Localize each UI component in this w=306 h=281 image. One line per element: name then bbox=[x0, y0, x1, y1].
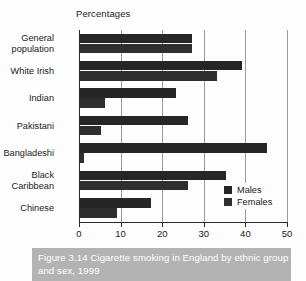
bar-females bbox=[80, 208, 117, 218]
x-tick-label-20: 20 bbox=[157, 228, 168, 239]
legend-label: Males bbox=[237, 185, 262, 195]
x-tick-20 bbox=[162, 223, 163, 227]
bar-females bbox=[80, 71, 217, 81]
category-label: White Irish bbox=[0, 66, 54, 77]
bar-females bbox=[80, 153, 84, 163]
gridline-50 bbox=[287, 30, 288, 222]
bar-males bbox=[80, 198, 151, 208]
x-tick-50 bbox=[287, 223, 288, 227]
category-row: General population bbox=[79, 30, 287, 57]
x-tick-label-40: 40 bbox=[240, 228, 251, 239]
axis-title: Percentages bbox=[76, 8, 130, 19]
legend-item-males: Males bbox=[224, 185, 272, 195]
bar-males bbox=[80, 171, 226, 181]
x-tick-label-30: 30 bbox=[199, 228, 210, 239]
category-row: Pakistani bbox=[79, 112, 287, 139]
x-tick-40 bbox=[245, 223, 246, 227]
bar-males bbox=[80, 143, 267, 153]
category-label: Pakistani bbox=[0, 121, 54, 132]
category-row: Bangladeshi bbox=[79, 140, 287, 167]
legend: MalesFemales bbox=[222, 183, 275, 209]
x-tick-label-10: 10 bbox=[115, 228, 126, 239]
bar-females bbox=[80, 126, 101, 136]
legend-item-females: Females bbox=[224, 197, 272, 207]
bar-males bbox=[80, 61, 242, 71]
bar-males bbox=[80, 88, 176, 98]
x-axis-line bbox=[79, 222, 288, 223]
x-tick-0 bbox=[79, 223, 80, 227]
bar-females bbox=[80, 44, 192, 54]
category-row: Indian bbox=[79, 85, 287, 112]
bar-males bbox=[80, 116, 188, 126]
category-label: General population bbox=[0, 33, 54, 54]
bar-males bbox=[80, 34, 192, 44]
x-tick-30 bbox=[204, 223, 205, 227]
category-label: Indian bbox=[0, 93, 54, 104]
x-tick-10 bbox=[121, 223, 122, 227]
category-row: White Irish bbox=[79, 57, 287, 84]
x-tick-label-0: 0 bbox=[76, 228, 81, 239]
legend-swatch-males-icon bbox=[224, 186, 232, 194]
x-tick-label-50: 50 bbox=[282, 228, 293, 239]
bar-females bbox=[80, 98, 105, 108]
category-label: Chinese bbox=[0, 203, 54, 214]
figure-caption: Figure 3.14 Cigarette smoking in England… bbox=[32, 248, 291, 281]
figure-smoking-by-ethnic-group: Percentages General populationWhite Iris… bbox=[0, 0, 306, 281]
bar-females bbox=[80, 181, 188, 191]
legend-label: Females bbox=[237, 197, 272, 207]
category-label: Bangladeshi bbox=[0, 148, 54, 159]
legend-swatch-females-icon bbox=[224, 198, 232, 206]
category-label: Black Caribbean bbox=[0, 170, 54, 191]
